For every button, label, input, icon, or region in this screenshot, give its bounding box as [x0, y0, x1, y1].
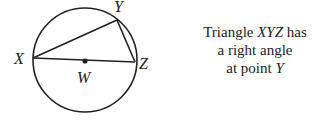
- label-z: Z: [139, 55, 149, 72]
- caption-line-1: Triangle XYZ has: [195, 23, 315, 41]
- label-y: Y: [114, 0, 125, 15]
- caption-line-3: at point Y: [195, 59, 315, 77]
- caption: Triangle XYZ has a right angle at point …: [195, 23, 315, 77]
- caption-line-2: a right angle: [195, 41, 315, 59]
- center-point-w: [82, 58, 87, 63]
- label-x: X: [13, 50, 25, 67]
- label-w: W: [77, 69, 92, 86]
- chord-yz: [117, 20, 135, 62]
